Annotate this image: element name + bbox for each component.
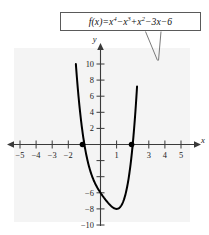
x-axis-arrow-right-icon	[194, 141, 201, 148]
x-axis-arrow-left-icon	[7, 141, 14, 148]
formula-term-5: 6	[167, 16, 172, 27]
x-tick-label--3: −3	[48, 151, 57, 160]
formula-callout-box: f(x)=x4−x3+x2−3x−6	[60, 12, 201, 31]
y-tick-label-6: 6	[90, 92, 94, 101]
x-tick-label-5: 5	[179, 151, 183, 160]
x-tick-label-1: 1	[115, 151, 119, 160]
formula-fx: f(x)	[89, 16, 103, 27]
graph-canvas: −5 −4 −3 −2 1 3 4 5 10 8 6 4 2 −6 −8 −10…	[0, 0, 209, 235]
x-tick-label-3: 3	[147, 151, 151, 160]
y-axis-label: y	[92, 34, 97, 44]
formula-text: f(x)=x4−x3+x2−3x−6	[89, 16, 172, 27]
x-axis-label: x	[200, 135, 205, 145]
y-tick-label-2: 2	[90, 124, 94, 133]
x-tick-label--4: −4	[32, 151, 42, 160]
x-tick-label--2: −2	[64, 151, 73, 160]
y-axis-arrow-up-icon	[97, 43, 104, 50]
y-tick-label-8: 8	[90, 76, 94, 85]
x-intercept-right-marker	[129, 142, 135, 148]
function-graph-figure: −5 −4 −3 −2 1 3 4 5 10 8 6 4 2 −6 −8 −10…	[0, 0, 209, 235]
y-tick-label--10: −10	[81, 221, 94, 230]
x-intercept-left-marker	[80, 142, 86, 148]
y-tick-label-10: 10	[86, 60, 94, 69]
y-tick-label--8: −8	[85, 205, 94, 214]
y-tick-label--6: −6	[85, 189, 94, 198]
formula-term-4: 3x	[152, 16, 161, 27]
x-tick-label--5: −5	[16, 151, 25, 160]
